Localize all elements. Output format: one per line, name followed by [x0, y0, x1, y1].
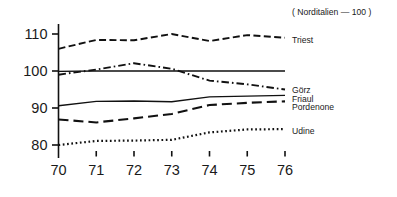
x-axis-tick-label: 71 — [88, 162, 104, 178]
x-axis-tick-label: 73 — [164, 162, 180, 178]
y-axis-tick-label: 100 — [23, 63, 47, 79]
x-axis-tick-label: 76 — [277, 162, 293, 178]
y-axis-tick-label: 80 — [31, 137, 47, 153]
series-labels: TriestGörzFriaulPordenoneUdine — [292, 35, 334, 136]
x-axis-ticks — [96, 151, 285, 157]
y-axis-tick-label: 90 — [31, 100, 47, 116]
series-line-friaul-long-dash — [59, 101, 286, 122]
series-line-g-rz — [59, 63, 286, 89]
series-line-triest — [59, 34, 286, 49]
series-label-pordenone: Pordenone — [292, 102, 334, 112]
chart-canvas: ( Norditalien — 100 ) 1101009080 7071727… — [0, 0, 397, 197]
x-axis-tick-labels: 70717273747576 — [50, 162, 293, 178]
y-axis-tick-labels: 1101009080 — [23, 26, 47, 153]
series-line-pordenone — [59, 95, 286, 105]
series-label-triest: Triest — [292, 35, 314, 45]
series-line-udine — [59, 129, 286, 145]
x-axis-tick-label: 74 — [201, 162, 217, 178]
x-axis-tick-label: 72 — [126, 162, 142, 178]
x-axis-tick-label: 70 — [50, 162, 66, 178]
y-axis-ticks — [52, 34, 59, 145]
x-axis-tick-label: 75 — [239, 162, 255, 178]
line-chart: ( Norditalien — 100 ) 1101009080 7071727… — [0, 0, 397, 197]
chart-annotation: ( Norditalien — 100 ) — [292, 7, 371, 17]
series-label-udine: Udine — [292, 126, 315, 136]
y-axis-tick-label: 110 — [24, 26, 47, 42]
series-lines — [59, 34, 286, 145]
